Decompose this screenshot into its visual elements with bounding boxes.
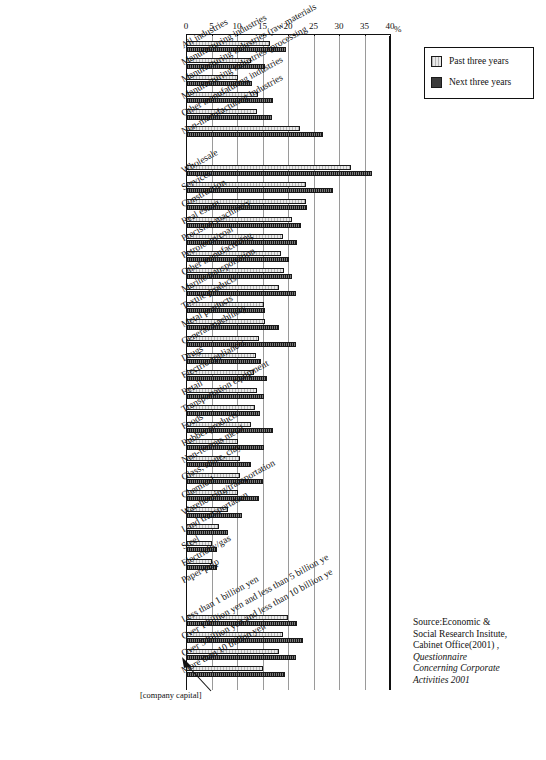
category-label-28: Steel [180, 542, 185, 551]
category-label-13: Marine transportation [180, 286, 185, 295]
category-label-7: Services [180, 183, 185, 192]
category-label-24: Glass, stone, clay [180, 474, 185, 483]
category-label-5: Non-manufacturing industries [180, 127, 185, 136]
category-label-26: Warehousing/transportation [180, 508, 185, 517]
bar-past-12 [186, 268, 284, 273]
x-axis-unit-label: % [394, 24, 402, 34]
category-label-1: Manufacturing industries [180, 59, 185, 68]
category-label-29: Electricity/gas [180, 560, 185, 569]
gridline-35 [365, 36, 366, 690]
category-label-18: Electric appliances [180, 371, 185, 380]
chart-root: 0510152025303540 % Past three years Next… [0, 0, 546, 760]
source-line-4: Questionnaire [413, 652, 543, 664]
legend-item-next: Next three years [431, 76, 511, 88]
source-line-6: Activities 2001 [413, 675, 543, 687]
legend-label-past: Past three years [449, 56, 509, 66]
category-label-3: Manufacturing industries (processing [180, 93, 185, 102]
category-label-0: All industries [180, 42, 185, 51]
category-label-14: Textile products [180, 303, 185, 312]
category-label-21: Foods [180, 423, 185, 432]
x-tick-label-35: 35 [360, 21, 369, 31]
category-label-12: Other manufacturing [180, 269, 185, 278]
legend-label-next: Next three years [449, 77, 511, 87]
category-label-27: Land transportation [180, 525, 185, 534]
legend-item-past: Past three years [431, 55, 509, 67]
x-tick-label-25: 25 [309, 21, 318, 31]
legend-swatch-next-icon [431, 77, 442, 88]
category-label-25: Chemical [180, 491, 185, 500]
x-tick-label-30: 30 [335, 21, 344, 31]
category-label-31: Less than 1 billion yen [180, 616, 185, 625]
source-note: Source:Economic & Social Research Insitu… [413, 617, 543, 687]
gridline-30 [339, 36, 340, 690]
bar-next-6 [186, 171, 372, 176]
category-label-16: General machinery [180, 337, 185, 346]
legend-swatch-past-icon [431, 56, 442, 67]
category-label-23: Non-ferrous metal [180, 457, 185, 466]
category-label-19: Retail [180, 389, 185, 398]
category-label-22: Rubber products [180, 440, 185, 449]
category-label-32: Over 1 billion yen and less than 5 billi… [180, 633, 185, 642]
bar-past-6 [186, 165, 351, 170]
chart-legend: Past three years Next three years [424, 47, 534, 99]
category-label-4: Other manufaturing industries [180, 110, 185, 119]
category-label-11: Petroleum/coal [180, 252, 185, 261]
category-label-15: Metal products [180, 320, 185, 329]
capital-annotation-label: [company capital] [140, 690, 202, 700]
x-tick-label-0: 0 [184, 21, 189, 31]
source-line-1: Source:Economic & [413, 617, 543, 629]
gridline-40 [390, 36, 391, 690]
category-label-10: Precision machinery [180, 235, 185, 244]
category-label-8: Construction [180, 200, 185, 209]
source-line-3: Cabinet Office(2001) , [413, 640, 543, 652]
bar-next-5 [186, 132, 323, 137]
category-label-2: Manufacturing industries (raw materials [180, 76, 185, 85]
category-label-30: Paper-pulp [180, 577, 185, 586]
category-label-20: Transportation equipment [180, 406, 185, 415]
category-label-17: Drugs [180, 354, 185, 363]
category-label-6: Wholesale [180, 166, 185, 175]
source-line-2: Social Research Insitute, [413, 629, 543, 641]
source-line-5: Concerning Corporate [413, 663, 543, 675]
category-label-9: Real estate [180, 218, 185, 227]
bar-past-5 [186, 126, 300, 131]
